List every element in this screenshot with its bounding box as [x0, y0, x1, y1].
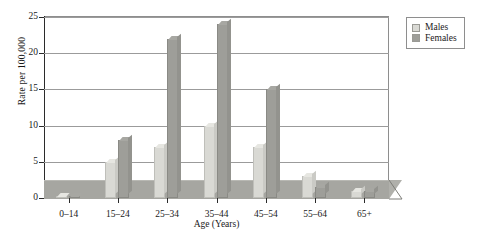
bar-female-65+	[364, 191, 375, 198]
bar-male-3544	[204, 126, 215, 198]
x-axis-tick	[167, 198, 168, 203]
bar-female-5564	[315, 187, 326, 198]
x-axis-tick	[118, 198, 119, 203]
bar-group	[253, 16, 279, 198]
legend-item-males[interactable]: Males	[412, 23, 457, 33]
x-axis-tick-label: 25–34	[155, 209, 179, 219]
x-axis-tick-label: 15–24	[106, 209, 130, 219]
legend-item-females[interactable]: Females	[412, 34, 457, 44]
y-axis-tick-label: 15	[29, 85, 39, 95]
bar-female-014	[69, 196, 80, 198]
bar-male-65+	[351, 191, 362, 198]
y-axis-tick-label: 20	[29, 48, 39, 58]
bar-group	[105, 16, 131, 198]
x-axis-tick	[217, 198, 218, 203]
bar-chart: Rate per 100,000 0510152025 0–1415–2425–…	[0, 0, 488, 243]
bar-male-5564	[302, 176, 313, 198]
x-axis-tick-label: 35–44	[205, 209, 229, 219]
bar-group	[56, 16, 82, 198]
x-axis-tick-label: 65+	[357, 209, 372, 219]
x-axis-tick	[266, 198, 267, 203]
legend-label-females: Females	[425, 34, 457, 44]
y-axis-tick-label: 0	[33, 193, 38, 203]
x-axis-tick-label: 0–14	[59, 209, 78, 219]
bar-series-container	[44, 16, 389, 199]
x-axis-tick	[364, 198, 365, 203]
x-axis-tick	[69, 198, 70, 203]
x-axis-tick-label: 45–54	[254, 209, 278, 219]
bar-male-014	[56, 196, 67, 198]
x-axis-tick-label: 55–64	[303, 209, 327, 219]
chart-floor-perspective-wedge	[389, 180, 402, 199]
plot-area: 0510152025 0–1415–2425–3435–4445–5455–64…	[44, 16, 389, 199]
legend-swatch-females-icon	[412, 34, 420, 42]
bar-group	[204, 16, 230, 198]
x-axis-tick	[315, 198, 316, 203]
bar-female-1524	[118, 140, 129, 198]
bar-female-3544	[217, 24, 228, 198]
y-axis-tick-label: 25	[29, 12, 39, 22]
bar-group	[302, 16, 328, 198]
bar-group	[154, 16, 180, 198]
chart-legend: Males Females	[406, 17, 465, 49]
y-axis-tick-label: 10	[29, 121, 39, 131]
bar-male-4554	[253, 147, 264, 198]
legend-label-males: Males	[425, 23, 448, 33]
bar-female-2534	[167, 39, 178, 198]
bar-male-2534	[154, 147, 165, 198]
x-axis-title: Age (Years)	[44, 219, 389, 229]
y-axis-title: Rate per 100,000	[17, 11, 27, 131]
bar-male-1524	[105, 162, 116, 198]
bar-group	[351, 16, 377, 198]
y-axis-tick-label: 5	[33, 157, 38, 167]
legend-swatch-males-icon	[412, 24, 420, 32]
bar-female-4554	[266, 89, 277, 198]
